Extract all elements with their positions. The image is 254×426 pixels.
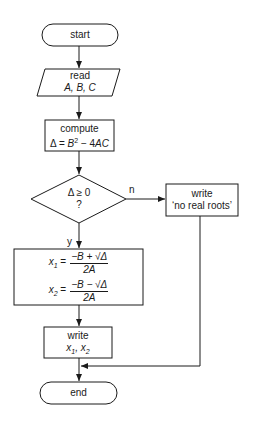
x2-denominator: 2A bbox=[70, 292, 108, 304]
no-branch-label: n bbox=[129, 184, 135, 195]
x2-equation: x2 = −B − √Δ 2A bbox=[14, 279, 143, 304]
decision-line1: Δ ≥ 0 bbox=[54, 187, 104, 199]
read-line2: A, B, C bbox=[40, 82, 120, 94]
compute-line1: compute bbox=[45, 123, 114, 135]
delta-eq: Δ = bbox=[50, 138, 68, 149]
no-roots-label: write ‘no real roots’ bbox=[166, 188, 238, 212]
x1-fraction: −B + √Δ 2A bbox=[70, 251, 108, 276]
decision-line2: ? bbox=[54, 199, 104, 211]
x2-sub: 2 bbox=[86, 348, 90, 355]
end-text: end bbox=[70, 387, 87, 398]
start-text: start bbox=[70, 29, 89, 40]
x2-eq: = bbox=[58, 284, 67, 295]
minus-four: − 4 bbox=[78, 138, 95, 149]
x1-equation: x1 = −B + √Δ 2A bbox=[14, 251, 143, 276]
read-line1: read bbox=[40, 70, 120, 82]
write-roots-line2: x1, x2 bbox=[44, 342, 112, 358]
x1-denominator: 2A bbox=[70, 264, 108, 276]
x2-fraction: −B − √Δ 2A bbox=[70, 279, 108, 304]
ac-var: AC bbox=[95, 138, 109, 149]
read-label: read A, B, C bbox=[40, 70, 120, 94]
decision-label: Δ ≥ 0 ? bbox=[54, 187, 104, 211]
x1-lhs: x1 = bbox=[49, 256, 67, 272]
no-roots-line2: ‘no real roots’ bbox=[166, 200, 238, 212]
x2-lhs: x2 = bbox=[49, 284, 67, 300]
no-roots-line1: write bbox=[166, 188, 238, 200]
x1-numerator: −B + √Δ bbox=[70, 251, 108, 264]
formulas-label: x1 = −B + √Δ 2A x2 = −B − √Δ 2A bbox=[14, 251, 143, 304]
x1-eq: = bbox=[58, 256, 67, 267]
compute-line2: Δ = B2 − 4AC bbox=[45, 135, 114, 150]
yes-branch-label: y bbox=[67, 236, 72, 247]
write-roots-label: write x1, x2 bbox=[44, 330, 112, 358]
write-roots-line1: write bbox=[44, 330, 112, 342]
start-label: start bbox=[42, 29, 118, 41]
x2-numerator: −B − √Δ bbox=[70, 279, 108, 292]
flowchart-canvas bbox=[0, 0, 254, 426]
end-label: end bbox=[40, 387, 117, 399]
compute-label: compute Δ = B2 − 4AC bbox=[45, 123, 114, 150]
